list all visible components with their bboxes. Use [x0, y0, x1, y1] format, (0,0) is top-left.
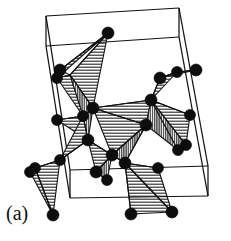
- atom-marker: [82, 134, 94, 146]
- atom-marker: [166, 206, 178, 218]
- atom-marker: [153, 163, 164, 174]
- atom-marker: [190, 64, 202, 76]
- atom-marker: [173, 145, 184, 156]
- atom-marker: [102, 27, 114, 39]
- atom-marker: [55, 155, 66, 166]
- atom-marker: [154, 72, 166, 84]
- structure-drawing-canvas: [0, 0, 231, 241]
- panel-label: (a): [6, 203, 28, 223]
- atom-marker: [119, 157, 131, 169]
- atom-marker: [185, 110, 196, 121]
- atom-marker: [106, 149, 118, 161]
- atom-marker: [145, 94, 157, 106]
- unit-cell-edge: [46, 8, 179, 16]
- atom-marker: [125, 208, 137, 220]
- atom-marker: [25, 167, 36, 178]
- unit-cell-edge: [46, 37, 179, 46]
- atom-marker: [87, 102, 99, 114]
- atom-marker: [140, 119, 152, 131]
- atom-marker: [47, 209, 59, 221]
- atom-marker: [78, 111, 89, 122]
- crystal-structure-figure: (a): [0, 0, 231, 241]
- atom-marker: [90, 166, 102, 178]
- atom-marker: [102, 175, 113, 186]
- atom-marker: [52, 73, 63, 84]
- atom-marker: [52, 115, 63, 126]
- atom-marker: [172, 67, 183, 78]
